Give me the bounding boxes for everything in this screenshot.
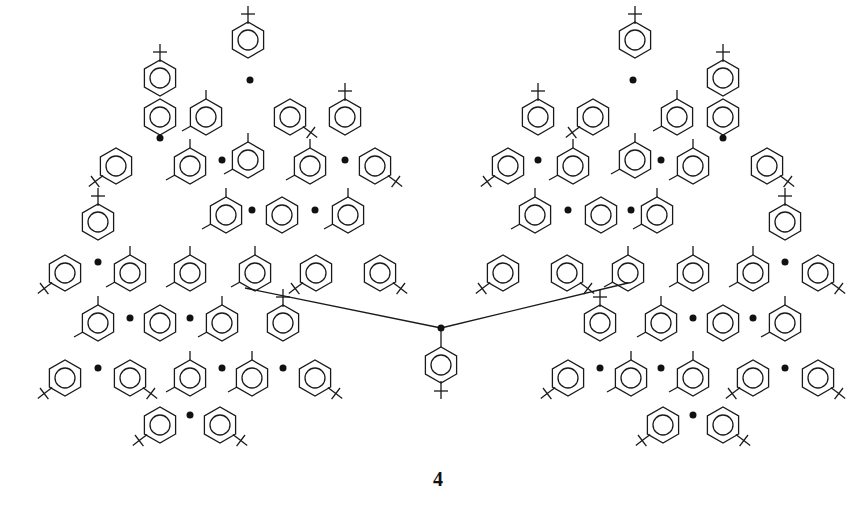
aromatic-circle [625,30,645,50]
radical-dot [127,315,134,322]
benzene-ring [737,255,768,291]
aromatic-circle [120,263,140,283]
radical-dot [95,365,102,372]
methyl-group [653,126,662,131]
benzene-ring [144,407,175,443]
aromatic-circle [150,415,170,435]
aromatic-circle [757,156,777,176]
aromatic-circle [667,107,687,127]
radical-dot [157,135,164,142]
aromatic-circle [808,368,828,388]
aromatic-circle [558,368,578,388]
radical-dot [782,259,789,266]
tert-butyl-branch [726,394,732,399]
tert-butyl-branch [289,289,295,294]
tert-butyl-bond [143,388,151,394]
radical-dot [187,412,194,419]
radical-dot [312,207,319,214]
benzene-ring [522,99,553,135]
tert-butyl-branch [396,182,402,187]
aromatic-circle [88,313,108,333]
tert-butyl-branch [38,394,44,399]
methyl-group [611,169,620,174]
radical-dot [630,77,637,84]
aromatic-circle [557,263,577,283]
aromatic-circle [335,107,355,127]
benzene-ring [190,99,221,135]
aromatic-circle [245,263,265,283]
tert-butyl-bond [303,127,311,133]
benzene-ring [174,148,205,184]
radical-dot [187,315,194,322]
benzene-ring [359,148,390,184]
benzene-ring [707,305,738,341]
tert-butyl-bond [328,388,336,394]
linker-bond-left [245,288,441,328]
methyl-group [228,387,237,392]
tert-butyl-bond [388,176,396,182]
benzene-ring [802,360,833,396]
methyl-group [761,332,770,337]
radical-dot [628,207,635,214]
tert-butyl-bond [642,435,650,441]
benzene-ring [236,360,267,396]
methyl-group [604,282,613,287]
methyl-group [286,175,295,180]
radical-dot [565,207,572,214]
tert-butyl-bond [732,388,740,394]
benzene-ring [100,148,131,184]
aromatic-circle [498,156,518,176]
benzene-ring [615,360,646,396]
radical-dot [658,157,665,164]
aromatic-circle [55,263,75,283]
radical-dot [750,315,757,322]
tert-butyl-bond [482,283,490,289]
benzene-ring [329,99,360,135]
benzene-ring [802,255,833,291]
benzene-ring [274,99,305,135]
aromatic-circle [88,212,108,232]
tert-butyl-branch [133,441,139,446]
aromatic-circle [713,415,733,435]
radical-dot [535,157,542,164]
benzene-ring [299,360,330,396]
methyl-group [231,282,240,287]
tert-butyl-bond [780,176,788,182]
aromatic-circle [743,368,763,388]
methyl-group [669,175,678,180]
radical-dot [597,365,604,372]
aromatic-circle [625,150,645,170]
methyl-group [637,332,646,337]
aromatic-circle [216,205,236,225]
benzene-ring [294,148,325,184]
aromatic-circle [210,415,230,435]
benzene-ring [204,407,235,443]
methyl-group [202,224,211,229]
aromatic-circle [653,415,673,435]
tert-butyl-branch [401,289,407,294]
benzene-ring [707,407,738,443]
tert-butyl-bond [831,388,839,394]
radical-dot [280,365,287,372]
benzene-ring [769,204,800,240]
radical-dot [690,412,697,419]
benzene-ring [82,305,113,341]
tert-butyl-branch [336,394,342,399]
aromatic-circle [242,368,262,388]
aromatic-circle [150,313,170,333]
benzene-ring [751,148,782,184]
benzene-ring [619,22,650,58]
benzene-ring [266,197,297,233]
benzene-ring [661,99,692,135]
tert-butyl-branch [151,394,157,399]
dendrimer-structure-diagram [0,0,865,523]
benzene-ring [174,360,205,396]
tert-butyl-bond [572,127,580,133]
aromatic-circle [300,156,320,176]
tert-butyl-branch [481,182,487,187]
methyl-group [166,387,175,392]
tert-butyl-branch [566,133,572,138]
aromatic-circle [647,205,667,225]
tert-butyl-branch [476,289,482,294]
methyl-group [324,224,333,229]
